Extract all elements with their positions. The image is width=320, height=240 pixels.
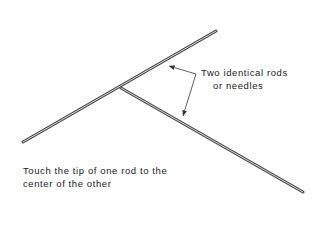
caption-line2: center of the other [23, 178, 112, 190]
pointer-arrows [169, 66, 196, 116]
rods-label-line1: Two identical rods [201, 67, 288, 79]
rods-label-line2: or needles [213, 80, 263, 92]
caption-line1: Touch the tip of one rod to the [23, 165, 167, 177]
